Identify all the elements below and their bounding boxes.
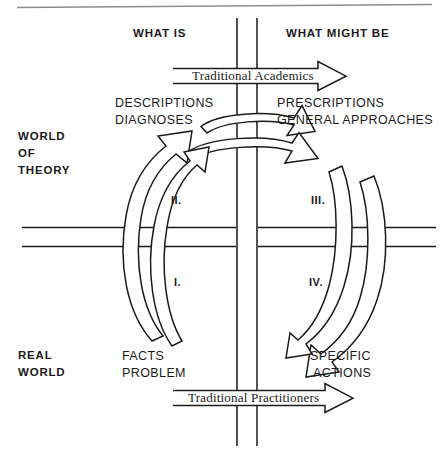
label-actions: ACTIONS [313, 366, 371, 380]
label-diagnoses: DIAGNOSES [115, 113, 193, 127]
top-rule [17, 5, 432, 8]
banner-label-traditional-academics: Traditional Academics [192, 68, 314, 84]
label-problem: PROBLEM [122, 366, 186, 380]
label-specific: SPECIFIC [310, 349, 371, 363]
quadrant-marker-iv: IV. [309, 276, 323, 288]
zone-label-real-world-line1: REAL [18, 349, 53, 361]
label-general-approaches: GENERAL APPROACHES [277, 113, 433, 127]
quadrant-marker-iii: III. [311, 194, 325, 206]
label-descriptions: DESCRIPTIONS [115, 96, 214, 110]
cross-intersection-mask [239, 228, 256, 246]
curved-arrow-left-upward [123, 131, 209, 346]
zone-label-world-of-theory-line3: THEORY [18, 164, 70, 176]
label-facts: FACTS [122, 349, 164, 363]
zone-label-world-of-theory-line2: OF [18, 147, 36, 159]
zone-label-real-world-line2: WORLD [18, 366, 65, 378]
curved-arrow-right-downward [286, 166, 386, 377]
zone-label-world-of-theory-line1: WORLD [18, 130, 65, 142]
quadrant-marker-ii: II. [171, 194, 182, 206]
label-prescriptions: PRESCRIPTIONS [277, 96, 384, 110]
diagram-canvas: WHAT IS WHAT MIGHT BE Traditional Academ… [0, 0, 445, 465]
quadrant-marker-i: I. [174, 276, 181, 288]
banner-label-traditional-practitioners: Traditional Practitioners [188, 390, 319, 406]
quadrant-header-what-might-be: WHAT MIGHT BE [286, 27, 389, 39]
quadrant-header-what-is: WHAT IS [133, 27, 186, 39]
